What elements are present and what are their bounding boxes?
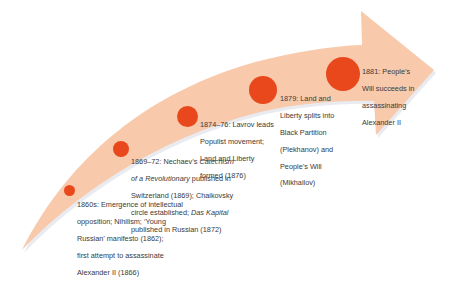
event-line: Will succeeds in	[362, 85, 414, 93]
event-line: Populist movement;	[200, 138, 274, 146]
event-line: Liberty splits into	[280, 112, 334, 120]
event-line: 1879: Land and	[280, 95, 334, 103]
event-line: 1874–76: Lavrov leads	[200, 121, 274, 129]
event-line: Black Partition	[280, 129, 334, 137]
event-line: Switzerland (1869); Chaikovsky	[131, 192, 234, 200]
event-label-1879: 1879: Land and Liberty splits into Black…	[280, 87, 334, 196]
event-line: assassinating	[362, 102, 414, 110]
event-line: published in Russian (1872)	[131, 226, 234, 234]
event-line: Land and Liberty	[200, 155, 274, 163]
event-dot-1879	[249, 76, 277, 104]
event-line: Alexander II	[362, 119, 414, 127]
event-dot-1860s	[64, 185, 75, 196]
event-line: circle established; Das Kapital	[131, 209, 234, 217]
event-label-1874-76: 1874–76: Lavrov leads Populist movement;…	[200, 113, 274, 189]
event-dot-1869-72	[113, 141, 129, 157]
event-dot-1881	[326, 57, 360, 91]
event-line: first attempt to assassinate	[77, 252, 183, 260]
event-line: (Plekhanov) and	[280, 146, 334, 154]
event-dot-1874-76	[177, 106, 198, 127]
event-line: (Mikhailov)	[280, 179, 334, 187]
event-line: 1881: People’s	[362, 68, 414, 76]
event-line: formed (1876)	[200, 172, 274, 180]
event-line: Alexander II (1866)	[77, 269, 183, 277]
event-line: People’s Will	[280, 163, 334, 171]
event-label-1881: 1881: People’s Will succeeds in assassin…	[362, 60, 414, 136]
